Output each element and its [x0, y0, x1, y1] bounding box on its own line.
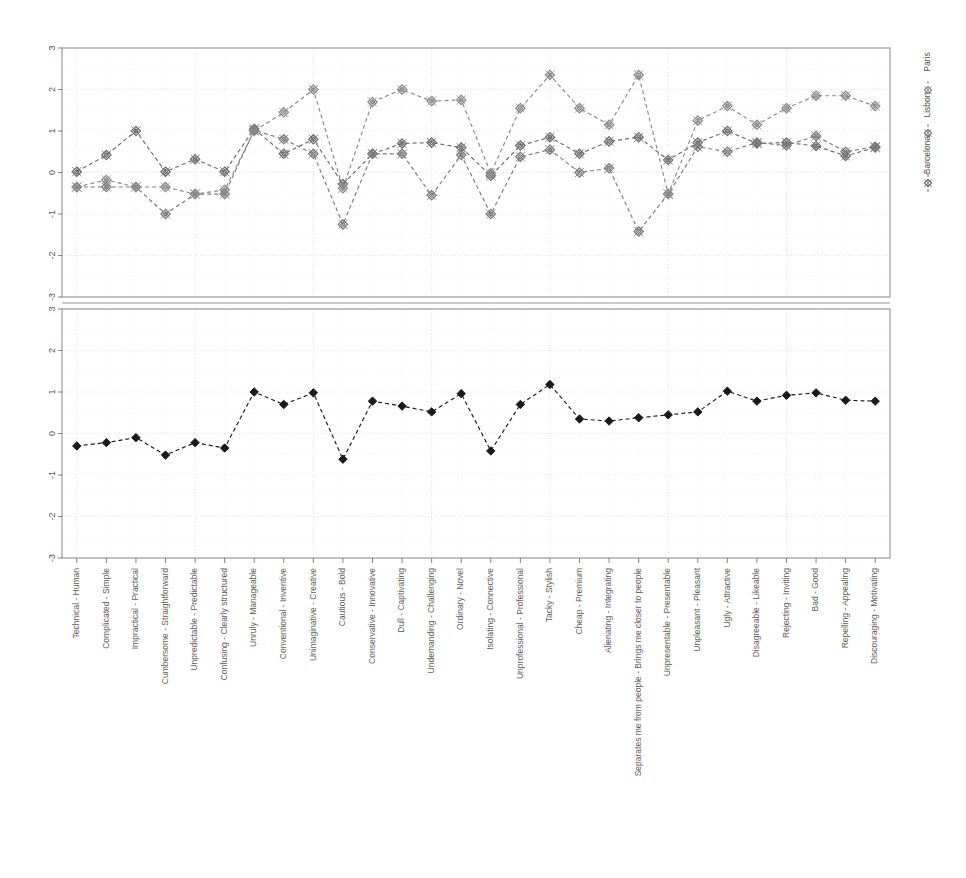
legend-label: Paris: [922, 52, 932, 71]
x-axis-category-label: Unruly - Manageable: [248, 568, 258, 647]
x-axis-category-label: Unpredictable - Predictable: [189, 568, 199, 671]
x-axis-category-label: Unprofessional - Professional: [515, 568, 525, 679]
y-axis-tick-label: 1: [47, 389, 57, 394]
x-axis-category-label: Separates me from people - Brings me clo…: [633, 568, 643, 777]
y-axis-tick-label: 0: [47, 431, 57, 436]
y-axis-tick-label: 1: [47, 128, 57, 133]
x-axis-category-label: Alienating - Integrating: [603, 568, 613, 653]
y-axis-tick-label: -2: [47, 512, 57, 520]
line-chart-figure: 3210-1-2-33210-1-2-3 Technical - HumanCo…: [0, 0, 966, 878]
chart-root: 3210-1-2-33210-1-2-3 Technical - HumanCo…: [0, 0, 966, 878]
x-axis-category-label: Undemanding - Challenging: [426, 568, 436, 674]
x-axis-category-label: Disagreeable - Likeable: [751, 568, 761, 658]
x-axis-category-label: Rejecting - Inviting: [781, 568, 791, 638]
x-axis-category-label: Complicated - Simple: [101, 568, 111, 649]
y-axis-tick-label: -3: [47, 554, 57, 562]
y-axis-tick-label: -3: [47, 293, 57, 301]
x-axis-category-label: Ordinary - Novel: [455, 568, 465, 630]
x-axis-category-label: Cumbersome - Straightforward: [160, 568, 170, 684]
x-axis-category-label: Unimaginative - Creative: [308, 568, 318, 661]
y-axis-tick-label: 0: [47, 170, 57, 175]
y-axis-tick-label: 3: [47, 306, 57, 311]
legend-label: Lisbon: [922, 92, 932, 117]
y-axis-tick-label: 2: [47, 87, 57, 92]
y-axis-tick-label: 2: [47, 348, 57, 353]
x-axis-category-label: Cautious - Bold: [337, 568, 347, 626]
y-axis-tick-label: -1: [47, 471, 57, 479]
x-axis-category-label: Ugly - Attractive: [722, 568, 732, 628]
x-axis-category-label: Isolating - Connective: [485, 568, 495, 650]
legend-label: Barcelona: [922, 136, 932, 175]
y-axis-tick-label: 3: [47, 45, 57, 50]
x-axis-category-label: Cheap - Premium: [574, 568, 584, 635]
y-axis-tick-label: -2: [47, 251, 57, 259]
y-axis-tick-label: -1: [47, 210, 57, 218]
x-axis-category-label: Unpresentable - Presentable: [662, 568, 672, 676]
x-axis-category-label: Dull - Captivating: [396, 568, 406, 633]
x-axis-category-label: Conservative - Innovative: [367, 568, 377, 664]
x-axis-category-label: Tacky - Stylish: [544, 568, 554, 623]
x-axis-category-label: Impractical - Practical: [130, 568, 140, 649]
x-axis-category-label: Unpleasant - Pleasant: [692, 567, 702, 651]
x-axis-category-label: Technical - Human: [71, 568, 81, 639]
x-axis-category-label: Bad - Good: [810, 568, 820, 612]
x-axis-category-label: Confusing - Clearly structured: [219, 568, 229, 681]
figure-background: [0, 0, 966, 878]
x-axis-category-label: Repelling - Appealing: [840, 568, 850, 649]
x-axis-category-label: Discouraging - Motivating: [869, 568, 879, 664]
x-axis-category-label: Conventional - Inventive: [278, 568, 288, 659]
